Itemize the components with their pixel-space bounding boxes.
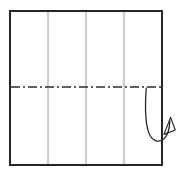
folding-diagram-figure: Paper folding diagram <box>0 0 187 179</box>
diagram-canvas: Paper folding diagram <box>0 0 187 179</box>
